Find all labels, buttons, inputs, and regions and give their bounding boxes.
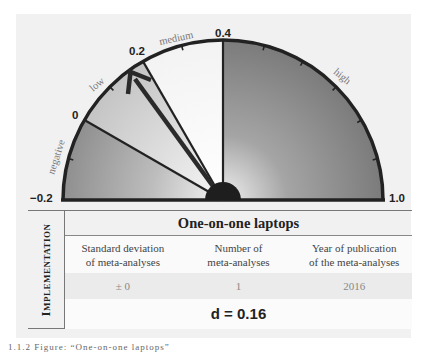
zone-high	[223, 40, 383, 200]
effect-size: d = 0.16	[65, 299, 412, 329]
label-0-2: 0.2	[129, 45, 145, 57]
label-0-4: 0.4	[215, 27, 232, 39]
label-max: 1.0	[389, 192, 405, 204]
summary-table: Implementation One-on-one laptops Standa…	[28, 210, 412, 329]
value-std-dev: ± 0	[65, 273, 181, 299]
table-header-row: Standard deviationof meta-analyses Numbe…	[65, 236, 412, 273]
value-number: 1	[181, 273, 297, 299]
implementation-label: Implementation	[38, 223, 54, 316]
intervention-title: One-on-one laptops	[65, 211, 412, 236]
barometer-gauge: −0.2 0 0.2 0.4 1.0 negative low medium h…	[0, 0, 442, 215]
label-zero: 0	[72, 109, 78, 121]
header-number: Number ofmeta-analyses	[181, 236, 297, 273]
header-std-dev: Standard deviationof meta-analyses	[65, 236, 181, 273]
header-year: Year of publicationof the meta-analyses	[296, 236, 412, 273]
zone-label-negative: negative	[45, 138, 67, 176]
value-year: 2016	[296, 273, 412, 299]
figure-caption: 1.1.2 Figure: “One-on-one laptops”	[8, 342, 170, 352]
label-min: −0.2	[30, 192, 53, 204]
table-value-row: ± 0 1 2016	[65, 273, 412, 299]
implementation-label-cell: Implementation	[28, 211, 65, 328]
